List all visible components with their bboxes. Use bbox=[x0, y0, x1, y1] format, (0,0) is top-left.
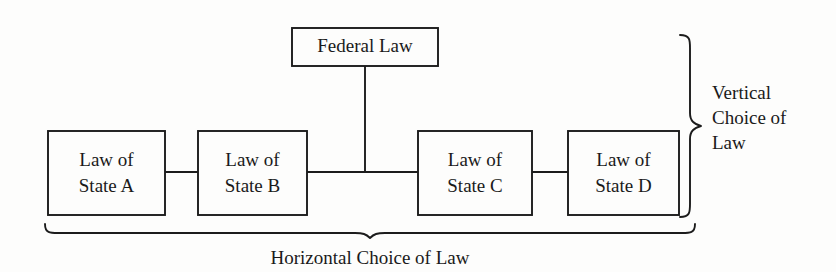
node-state-c-label-line1: Law of bbox=[448, 149, 503, 170]
node-state-a-box bbox=[48, 131, 165, 215]
diagram-canvas: Federal Law Law of State A Law of State … bbox=[0, 0, 836, 272]
horizontal-choice-of-law-label: Horizontal Choice of Law bbox=[271, 247, 470, 268]
node-state-b: Law of State B bbox=[198, 131, 307, 215]
node-state-a-label-line1: Law of bbox=[79, 149, 134, 170]
node-state-c-box bbox=[418, 131, 532, 215]
vertical-choice-of-law-brace bbox=[680, 35, 701, 217]
node-state-c-label-line2: State C bbox=[447, 175, 502, 196]
node-state-b-label-line2: State B bbox=[225, 175, 280, 196]
vertical-choice-of-law-label-line3: Law bbox=[712, 132, 746, 153]
choice-of-law-diagram: Federal Law Law of State A Law of State … bbox=[0, 0, 836, 272]
node-state-c: Law of State C bbox=[418, 131, 532, 215]
node-state-d-label-line2: State D bbox=[595, 175, 651, 196]
node-state-a: Law of State A bbox=[48, 131, 165, 215]
vertical-choice-of-law-label-line2: Choice of bbox=[712, 107, 787, 128]
node-state-d-box bbox=[568, 131, 679, 215]
node-state-d-label-line1: Law of bbox=[596, 149, 651, 170]
vertical-choice-of-law-label-line1: Vertical bbox=[712, 82, 771, 103]
node-state-b-label-line1: Law of bbox=[225, 149, 280, 170]
node-state-a-label-line2: State A bbox=[79, 175, 135, 196]
node-state-d: Law of State D bbox=[568, 131, 679, 215]
node-state-b-box bbox=[198, 131, 307, 215]
node-federal-law: Federal Law bbox=[292, 28, 438, 66]
node-federal-law-label: Federal Law bbox=[317, 35, 413, 56]
horizontal-choice-of-law-brace bbox=[45, 224, 695, 238]
